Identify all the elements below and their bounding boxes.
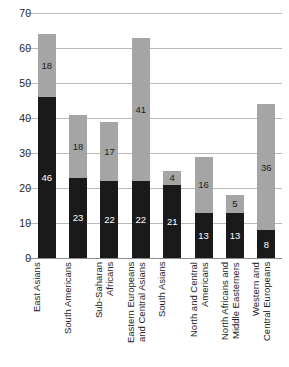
bar-5[interactable]: 214 <box>163 171 181 259</box>
bar-1[interactable]: 4618 <box>38 34 56 258</box>
y-axis: 706050403020100 <box>0 13 31 258</box>
x-category-label-3: Sub-Saharan Africans <box>93 262 125 365</box>
bar-label-top: 41 <box>132 105 150 115</box>
bar-label-top: 17 <box>100 147 118 157</box>
bar-label-top: 5 <box>226 199 244 209</box>
stacked-bar-chart: 706050403020100 461823182217224121413161… <box>0 0 289 367</box>
gridline-50 <box>31 83 282 84</box>
bar-7[interactable]: 135 <box>226 195 244 258</box>
bar-label-bottom: 23 <box>69 213 87 223</box>
bar-8[interactable]: 836 <box>257 104 275 258</box>
gridline-70 <box>31 13 282 14</box>
bar-label-bottom: 46 <box>38 173 56 183</box>
x-axis-category-labels: East AsiansSouth AmericansSub-Saharan Af… <box>31 262 282 367</box>
bar-label-bottom: 21 <box>163 217 181 227</box>
bar-label-bottom: 13 <box>226 231 244 241</box>
x-category-label-7: North Africans and Middle Easterners <box>219 262 251 365</box>
bar-label-bottom: 22 <box>100 215 118 225</box>
bar-label-top: 18 <box>69 142 87 152</box>
x-category-label-5: South Asians <box>156 262 188 365</box>
bar-label-top: 18 <box>38 61 56 71</box>
bar-6[interactable]: 1316 <box>195 157 213 259</box>
x-category-label-1: East Asians <box>31 262 63 365</box>
x-category-label-4: Eastern Europeans and Central Asians <box>125 262 157 365</box>
x-category-label-6: North and Central Americans <box>188 262 220 365</box>
bar-label-bottom: 13 <box>195 231 213 241</box>
plot-area: 46182318221722412141316135836 <box>31 13 282 258</box>
bar-label-top: 16 <box>195 180 213 190</box>
bar-2[interactable]: 2318 <box>69 115 87 259</box>
bar-3[interactable]: 2217 <box>100 122 118 259</box>
bar-label-top: 4 <box>163 173 181 183</box>
x-category-label-8: Western and Central Europeans <box>250 262 282 365</box>
bar-4[interactable]: 2241 <box>132 38 150 259</box>
gridline-60 <box>31 48 282 49</box>
bar-label-top: 36 <box>257 163 275 173</box>
x-category-label-2: South Americans <box>62 262 94 365</box>
bar-label-bottom: 8 <box>257 240 275 250</box>
bar-label-bottom: 22 <box>132 215 150 225</box>
gridline-0 <box>31 258 282 259</box>
